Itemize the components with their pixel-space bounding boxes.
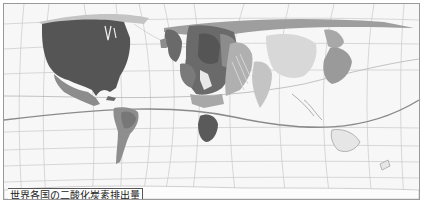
region-australia: [331, 130, 360, 152]
map-frame: 世界各国の二酸化炭素排出量: [3, 3, 420, 200]
region-korea: [324, 30, 344, 48]
region-south-africa: [198, 114, 218, 142]
region-ireland: [160, 38, 167, 48]
region-southeast-asia: [292, 94, 322, 120]
region-japan: [323, 48, 352, 84]
cartogram-map: [4, 4, 419, 199]
region-north-africa: [190, 94, 224, 108]
region-uk: [165, 30, 182, 62]
region-caribbean: [106, 96, 116, 101]
region-india: [252, 62, 272, 109]
region-usa: [42, 20, 130, 96]
region-china: [266, 34, 317, 78]
map-caption: 世界各国の二酸化炭素排出量: [8, 188, 143, 200]
region-middle-east: [225, 42, 252, 96]
